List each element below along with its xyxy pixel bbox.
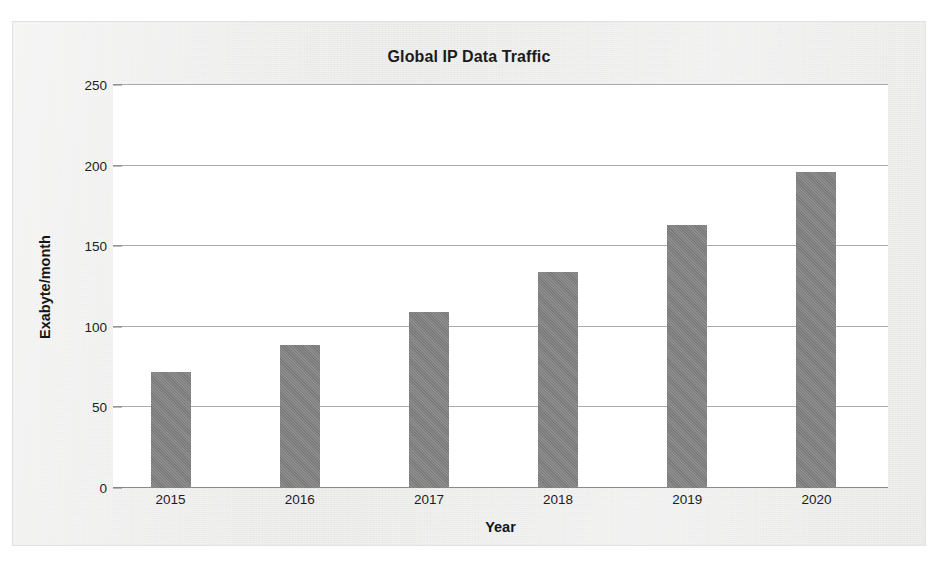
y-tick-mark-150	[113, 246, 122, 247]
x-axis-line	[113, 487, 888, 488]
x-tick-label-2018: 2018	[518, 492, 598, 507]
bar-chart-figure: Global IP Data Traffic Exabyte/month 050…	[13, 22, 925, 545]
x-tick-label-2017: 2017	[389, 492, 469, 507]
bar-2020	[796, 172, 836, 488]
bar-2017	[409, 312, 449, 488]
plot-area	[113, 85, 888, 488]
x-tick-label-2016: 2016	[260, 492, 340, 507]
x-tick-label-2020: 2020	[776, 492, 856, 507]
y-tick-mark-100	[113, 326, 122, 327]
gridline	[113, 165, 888, 166]
scanned-page: Global IP Data Traffic Exabyte/month 050…	[13, 22, 925, 545]
x-tick-label-2015: 2015	[131, 492, 211, 507]
bar-2018	[538, 272, 578, 488]
y-tick-mark-50	[113, 407, 122, 408]
y-tick-mark-200	[113, 165, 122, 166]
gridline	[113, 406, 888, 407]
gridline	[113, 245, 888, 246]
bar-2019	[667, 225, 707, 488]
y-tick-mark-250	[113, 85, 122, 86]
gridline	[113, 84, 888, 85]
x-axis-tick-labels: 201520162017201820192020	[113, 492, 888, 514]
bar-2016	[280, 345, 320, 488]
chart-title: Global IP Data Traffic	[13, 48, 925, 66]
bar-2015	[151, 372, 191, 488]
y-tick-mark-0	[113, 488, 122, 489]
x-axis-title: Year	[113, 519, 888, 535]
y-axis-tick-marks	[13, 85, 133, 488]
x-tick-label-2019: 2019	[647, 492, 727, 507]
gridline	[113, 326, 888, 327]
